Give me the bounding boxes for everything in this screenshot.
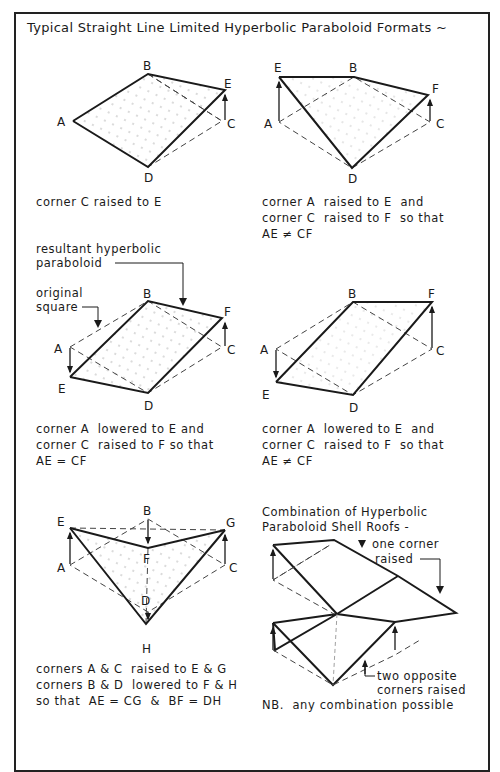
label-E: E xyxy=(57,515,65,529)
label-H: H xyxy=(142,642,151,656)
label-F: F xyxy=(143,552,150,566)
label-C: C xyxy=(227,343,235,357)
diagram-a-lowered-c-raised-equal: B F A C E D resultant hyperbolic parabol… xyxy=(36,242,235,413)
caption-line: corners B & D lowered to F & H xyxy=(36,677,238,693)
label-D: D xyxy=(144,399,153,413)
label-E: E xyxy=(274,61,282,75)
label-A: A xyxy=(54,342,63,356)
combination-heading-line2: Paraboloid Shell Roofs - xyxy=(262,520,409,534)
caption-line: AE ≠ CF xyxy=(262,453,444,469)
annotation-two-corners-line2: corners raised xyxy=(377,683,466,697)
label-E: E xyxy=(224,77,232,91)
caption-line: AE ≠ CF xyxy=(262,226,444,242)
label-F: F xyxy=(432,82,439,96)
label-B: B xyxy=(143,59,151,73)
label-A: A xyxy=(57,561,66,575)
caption-line: so that AE = CG & BF = DH xyxy=(36,693,238,709)
label-D: D xyxy=(349,401,358,415)
label-A: A xyxy=(57,115,66,129)
label-D: D xyxy=(348,172,357,186)
label-C: C xyxy=(436,344,444,358)
label-F: F xyxy=(224,305,231,319)
annotation-resultant-line1: resultant hyperbolic xyxy=(36,242,161,256)
label-B: B xyxy=(143,504,151,518)
caption-line: corner A lowered to E and xyxy=(36,421,214,437)
caption-panel-6: NB. any combination possible xyxy=(262,697,454,713)
annotation-original-line1: original xyxy=(36,286,83,300)
label-C: C xyxy=(229,561,237,575)
annotation-resultant-line2: paraboloid xyxy=(36,256,102,270)
caption-line: corners A & C raised to E & G xyxy=(36,661,238,677)
diagram-a-lowered-c-raised-unequal: B F A C E D xyxy=(260,287,444,415)
diagram-c-raised-to-e: B E A C D xyxy=(57,59,235,185)
label-C: C xyxy=(227,117,235,131)
combination-heading-line1: Combination of Hyperbolic xyxy=(262,505,428,519)
label-F: F xyxy=(428,287,435,301)
label-C: C xyxy=(436,117,444,131)
diagram-a-and-c-raised: E B F A C D xyxy=(264,61,444,186)
label-G: G xyxy=(226,516,235,530)
caption-line: corner A raised to E and xyxy=(262,194,444,210)
label-E: E xyxy=(262,388,270,402)
annotation-original-line2: square xyxy=(36,300,78,314)
caption-panel-4: corner A lowered to E andcorner C raised… xyxy=(262,421,444,469)
label-A: A xyxy=(264,117,273,131)
annotation-two-corners-line1: two opposite xyxy=(377,669,457,683)
caption-panel-3: corner A lowered to E andcorner C raised… xyxy=(36,421,214,469)
annotation-one-corner-line1: one corner xyxy=(372,537,439,551)
label-B: B xyxy=(143,287,151,301)
annotation-one-corner-line2: raised xyxy=(375,552,413,566)
caption-panel-1: corner C raised to E xyxy=(36,194,162,210)
label-D: D xyxy=(141,594,150,608)
caption-line: corner C raised to F so that xyxy=(36,437,214,453)
label-B: B xyxy=(348,287,356,301)
caption-panel-2: corner A raised to E andcorner C raised … xyxy=(262,194,444,242)
caption-line: NB. any combination possible xyxy=(262,697,454,713)
caption-line: corner C raised to E xyxy=(36,195,162,209)
caption-line: AE = CF xyxy=(36,453,214,469)
label-D: D xyxy=(144,171,153,185)
diagram-combination-shell-roofs: Combination of Hyperbolic Paraboloid She… xyxy=(262,505,466,697)
label-E: E xyxy=(58,382,66,396)
caption-line: corner C raised to F so that xyxy=(262,210,444,226)
caption-line: corner C raised to F so that xyxy=(262,437,444,453)
caption-line: corner A lowered to E and xyxy=(262,421,444,437)
caption-panel-5: corners A & C raised to E & Gcorners B &… xyxy=(36,661,238,709)
label-A: A xyxy=(260,343,269,357)
diagram-four-corners: B E G F A C D H xyxy=(57,504,237,656)
label-B: B xyxy=(349,61,357,75)
